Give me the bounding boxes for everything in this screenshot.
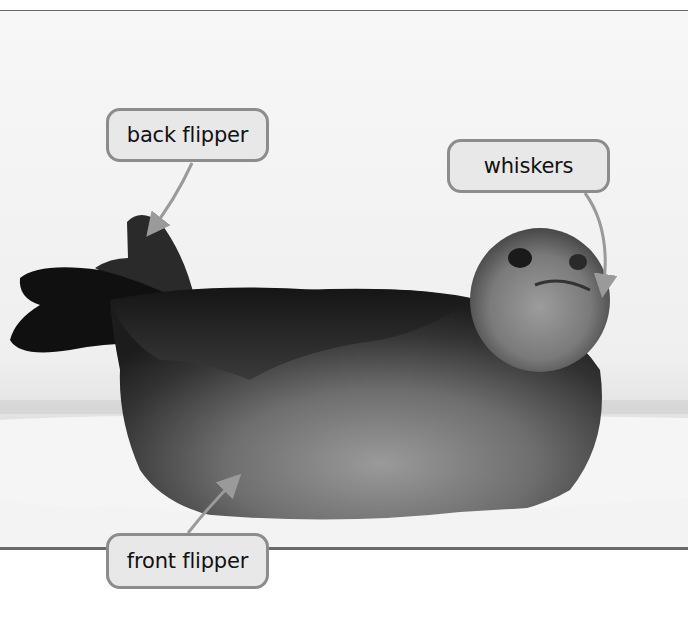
seal-illustration — [0, 11, 688, 549]
bottom-frame-rule — [0, 547, 688, 550]
seal-photo — [0, 11, 688, 549]
front-flipper-label-text: front flipper — [127, 551, 248, 572]
back-flipper-label-text: back flipper — [127, 125, 248, 146]
front-flipper-label: front flipper — [106, 533, 269, 589]
back-flipper-label: back flipper — [106, 108, 269, 162]
whiskers-label-text: whiskers — [484, 156, 574, 177]
whiskers-label: whiskers — [447, 139, 610, 193]
